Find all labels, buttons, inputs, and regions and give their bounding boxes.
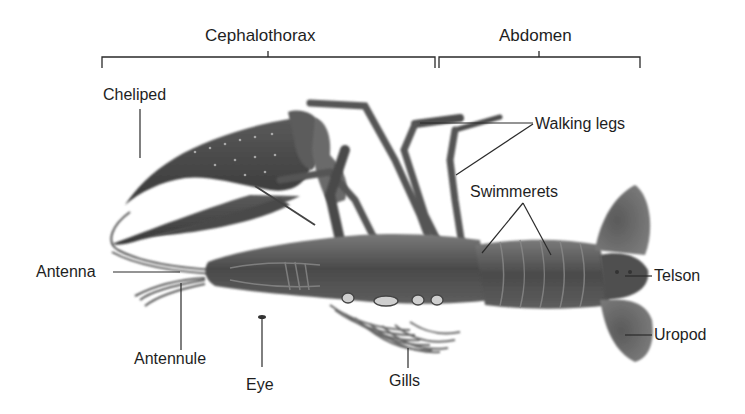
crayfish-illustration (0, 0, 745, 414)
cheliped-claw (125, 118, 312, 205)
label-uropod: Uropod (654, 327, 706, 343)
uropod-lower (600, 299, 653, 362)
label-walking-legs: Walking legs (535, 116, 625, 132)
abdomen-bracket (439, 51, 640, 68)
label-cheliped: Cheliped (103, 87, 166, 103)
label-antenna: Antenna (36, 264, 96, 280)
region-label-abdomen: Abdomen (499, 27, 572, 44)
label-telson: Telson (654, 268, 700, 284)
label-swimmerets: Swimmerets (470, 184, 558, 200)
walking-legs-leader-b (456, 124, 533, 175)
crayfish-diagram: Cephalothorax Abdomen Cheliped Walking l… (0, 0, 745, 414)
cephalothorax-bracket (102, 51, 435, 68)
label-antennule: Antennule (134, 351, 206, 367)
gills (330, 305, 460, 352)
label-eye: Eye (246, 377, 274, 393)
region-label-cephalothorax: Cephalothorax (205, 27, 316, 44)
uropod-upper (595, 185, 650, 255)
label-gills: Gills (389, 373, 420, 389)
